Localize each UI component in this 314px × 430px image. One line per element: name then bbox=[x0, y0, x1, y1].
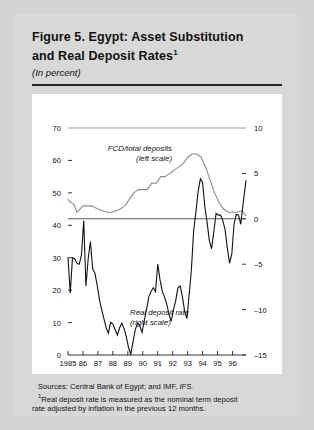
left-tick-label: 40 bbox=[53, 221, 61, 230]
left-tick-label: 60 bbox=[53, 156, 61, 165]
right-tick-label: –10 bbox=[254, 306, 267, 315]
sources-text: Sources: Central Bank of Egypt; and IMF, bbox=[38, 382, 179, 391]
x-tick-label: 91 bbox=[154, 359, 162, 368]
right-tick-label: –5 bbox=[254, 260, 262, 269]
figure-title-line2: and Real Deposit Rates bbox=[32, 49, 173, 63]
left-tick-label: 70 bbox=[53, 124, 61, 133]
annotation-fcd-total-deposits: FCD/total deposits (left scale) bbox=[108, 144, 173, 163]
series-line-fcd-total-deposits bbox=[68, 154, 246, 216]
right-tick-label: 0 bbox=[254, 215, 258, 224]
figure-title-block: Figure 5. Egypt: Asset Substitution and … bbox=[32, 30, 282, 78]
x-tick-label: 1985 bbox=[60, 359, 77, 368]
footnote-text-1: Real deposit rate is measured as the nom… bbox=[41, 394, 237, 403]
x-axis-ticks bbox=[68, 351, 233, 355]
x-tick-label: 90 bbox=[139, 359, 147, 368]
annotation-real-line1: Real deposit rate bbox=[130, 308, 190, 317]
annotation-real-line2: (right scale) bbox=[130, 318, 171, 327]
sources-note: Sources: Central Bank of Egypt; and IMF,… bbox=[32, 382, 284, 392]
left-axis-tick-labels: 010203040506070 bbox=[53, 124, 61, 360]
left-tick-label: 20 bbox=[53, 286, 61, 295]
footnote-line-1: 1Real deposit rate is measured as the no… bbox=[32, 392, 284, 404]
plot-card: 19858687888990919293949596 0102030405060… bbox=[32, 94, 282, 374]
figure-notes: Sources: Central Bank of Egypt; and IMF,… bbox=[32, 382, 284, 413]
x-tick-label: 88 bbox=[109, 359, 117, 368]
left-axis-ticks bbox=[68, 160, 72, 322]
right-tick-label: 5 bbox=[254, 169, 258, 178]
left-tick-label: 10 bbox=[53, 319, 61, 328]
x-tick-label: 96 bbox=[228, 359, 236, 368]
footnote-line-2: rate adjusted by inflation in the previo… bbox=[32, 404, 284, 414]
figure-title-footnote-marker: 1 bbox=[173, 48, 178, 57]
x-tick-label: 89 bbox=[124, 359, 132, 368]
figure-title-line1: Figure 5. Egypt: Asset Substitution bbox=[32, 30, 243, 44]
left-tick-label: 50 bbox=[53, 189, 61, 198]
figure-subtitle: (In percent) bbox=[32, 67, 282, 78]
right-tick-label: –15 bbox=[254, 351, 267, 360]
annotation-fcd-line2: (left scale) bbox=[136, 154, 172, 163]
x-tick-label: 94 bbox=[198, 359, 206, 368]
right-axis-tick-labels: –15–10–50510 bbox=[254, 124, 267, 360]
footnote-text-2: rate adjusted by inflation in the previo… bbox=[32, 404, 206, 413]
chart-canvas: 19858687888990919293949596 0102030405060… bbox=[32, 94, 282, 374]
x-tick-label: 86 bbox=[79, 359, 87, 368]
right-tick-label: 10 bbox=[254, 124, 262, 133]
sources-italic-text: IFS. bbox=[179, 382, 193, 391]
annotation-fcd-line1: FCD/total deposits bbox=[108, 144, 172, 153]
x-tick-label: 87 bbox=[94, 359, 102, 368]
x-axis-tick-labels: 19858687888990919293949596 bbox=[60, 359, 237, 368]
title-divider bbox=[32, 84, 282, 86]
series-line-real-deposit-rate bbox=[68, 179, 246, 354]
left-tick-label: 0 bbox=[57, 351, 61, 360]
x-tick-label: 95 bbox=[213, 359, 221, 368]
x-tick-label: 92 bbox=[168, 359, 176, 368]
annotation-real-deposit-rate: Real deposit rate (right scale) bbox=[130, 308, 190, 327]
figure-title: Figure 5. Egypt: Asset Substitution and … bbox=[32, 30, 282, 64]
figure-panel: Figure 5. Egypt: Asset Substitution and … bbox=[14, 14, 300, 416]
x-tick-label: 93 bbox=[183, 359, 191, 368]
left-tick-label: 30 bbox=[53, 254, 61, 263]
